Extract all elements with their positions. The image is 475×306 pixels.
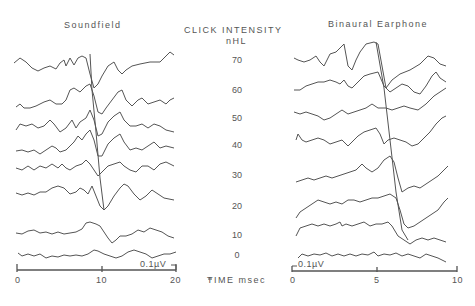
time-axis-label: TIME msec	[207, 275, 266, 285]
soundfield-scale-bar	[171, 265, 176, 270]
soundfield-tick-10: 10	[96, 275, 107, 285]
soundfield-trace-70	[14, 52, 174, 88]
soundfield-scale-label: 0.1µV	[140, 259, 166, 269]
binaural-tick-0: 0	[290, 275, 296, 285]
binaural-trace-70	[294, 42, 446, 88]
binaural-scale-label: 0.1µV	[298, 259, 324, 269]
binaural-tick-5: 5	[374, 275, 380, 285]
soundfield-tick-0: 0	[15, 275, 21, 285]
soundfield-trace-10	[16, 222, 174, 243]
binaural-trace-10	[296, 222, 446, 244]
soundfield-trace-20	[16, 184, 174, 210]
soundfield-trace-40	[16, 130, 174, 156]
binaural-trace-40	[296, 116, 446, 146]
binaural-trace-30	[296, 156, 448, 192]
binaural-tick-10: 10	[452, 275, 463, 285]
soundfield-trace-30	[16, 160, 174, 176]
soundfield-tick-20: 20	[170, 275, 181, 285]
binaural-trace-20	[296, 194, 448, 228]
soundfield-trace-0	[18, 250, 176, 258]
soundfield-trace-60	[16, 84, 174, 114]
waveform-plot	[0, 0, 475, 306]
binaural-trace-60	[294, 72, 446, 94]
binaural-trace-50	[294, 88, 446, 120]
